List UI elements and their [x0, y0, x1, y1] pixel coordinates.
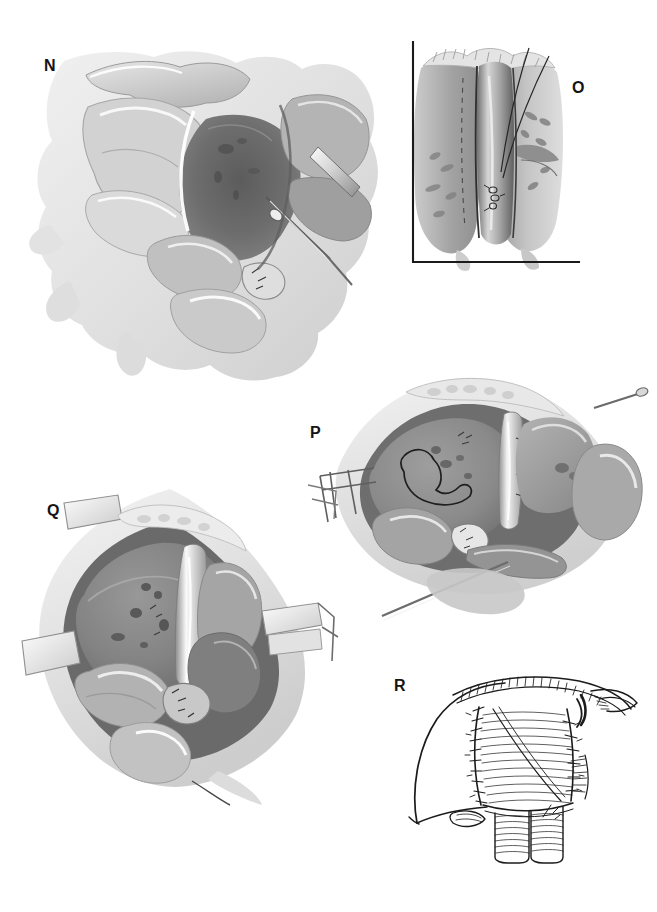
flap-lower-hem [483, 803, 573, 811]
lobe-bleb [555, 463, 569, 473]
flap-horizontal-hatching [481, 712, 574, 803]
viscus-mottle [218, 144, 234, 154]
frame-rule [413, 42, 579, 262]
viscus-mottle [248, 168, 260, 174]
panel-label-n: N [44, 58, 56, 74]
panel-n-artwork [30, 45, 410, 390]
viscus-mottle [214, 171, 222, 183]
panel-label-p: P [310, 425, 321, 441]
panel-r [395, 665, 645, 865]
panel-label-q: Q [47, 503, 60, 519]
flap-corner [409, 817, 419, 824]
curled-horn [591, 690, 637, 712]
panel-p-artwork [318, 372, 648, 622]
running-suture-stitches [470, 707, 487, 803]
suture-knot-ticks-right [575, 722, 584, 791]
organ-bleb [456, 455, 464, 461]
panel-o-frame [405, 36, 590, 271]
lower-drape-wisp [208, 771, 262, 805]
flap-outline-left [415, 683, 505, 823]
organ-bleb [141, 583, 151, 591]
panel-q-artwork [22, 485, 342, 805]
panel-label-r: R [394, 678, 406, 694]
organ-bleb [154, 591, 162, 599]
viscus-mottle [237, 138, 247, 144]
suture-knot-ticks [465, 713, 475, 797]
panel-r-artwork [395, 665, 645, 865]
organ-bleb [111, 633, 125, 641]
superior-edge-inner [457, 687, 625, 715]
organ-bleb [431, 446, 441, 454]
retractor-frame-fragment [308, 485, 338, 519]
panel-label-o: O [572, 80, 585, 96]
right-shading-border [585, 755, 588, 799]
anastomosis-knot [163, 683, 210, 723]
organ-bleb [130, 608, 142, 618]
organ-bleb [140, 642, 148, 648]
retractor-frame-right [318, 603, 338, 661]
panel-p [318, 372, 648, 622]
organ-bleb [464, 473, 472, 479]
superior-edge [453, 677, 631, 709]
suture-line-border [475, 707, 481, 805]
viscus-mottle [233, 190, 239, 200]
retractor-right [594, 386, 649, 408]
panel-q [22, 485, 342, 805]
panel-n [30, 45, 410, 390]
rolled-tab-hatching [456, 814, 482, 822]
fold-crease [493, 709, 561, 801]
right-rounded-organ [572, 444, 642, 540]
organ-bleb [159, 619, 169, 631]
organ-bleb [440, 460, 452, 468]
figure-plate: N [0, 0, 657, 912]
tube-left [495, 811, 529, 863]
